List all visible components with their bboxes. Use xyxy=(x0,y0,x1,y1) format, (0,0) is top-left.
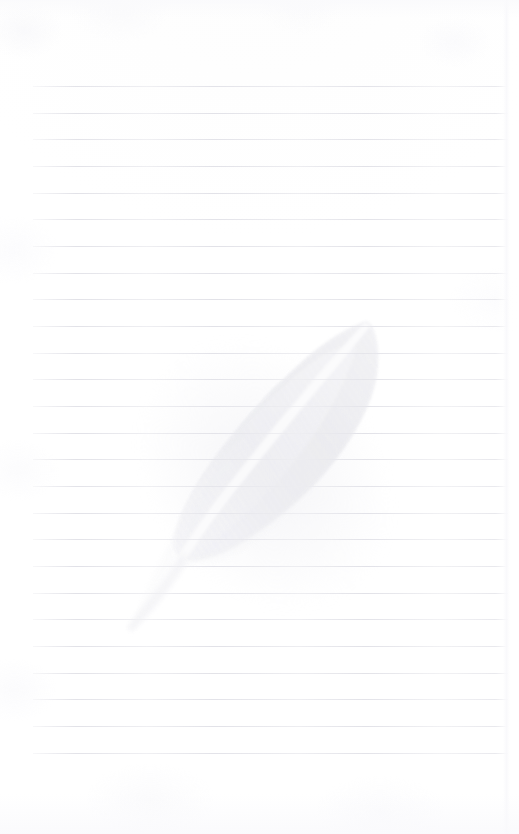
ruled-line xyxy=(33,566,508,567)
page-top-edge-glare xyxy=(0,0,519,18)
ruled-line xyxy=(33,139,508,140)
ruled-line xyxy=(33,459,508,460)
ruled-line xyxy=(33,726,508,727)
ruled-line xyxy=(33,353,508,354)
ruled-line xyxy=(33,219,508,220)
ruled-line xyxy=(33,619,508,620)
ruled-line xyxy=(33,699,508,700)
ruled-line xyxy=(33,299,508,300)
ruled-line xyxy=(33,326,508,327)
ruled-line xyxy=(33,646,508,647)
page-right-edge-shade xyxy=(503,0,510,834)
ruled-line xyxy=(33,673,508,674)
ruled-line xyxy=(33,753,508,754)
ruled-line xyxy=(33,539,508,540)
ruled-line xyxy=(33,513,508,514)
ruled-line xyxy=(33,433,508,434)
ruled-line xyxy=(33,86,508,87)
ruled-line xyxy=(33,193,508,194)
ruled-line xyxy=(33,593,508,594)
ruled-line xyxy=(33,406,508,407)
page-bottom-edge-glare xyxy=(0,794,519,834)
ruled-line xyxy=(33,246,508,247)
notebook-page: Ruled notebook page xyxy=(0,0,519,834)
ruled-line xyxy=(33,379,508,380)
ruled-line xyxy=(33,113,508,114)
ruled-line xyxy=(33,166,508,167)
ruled-line xyxy=(33,486,508,487)
ruled-line xyxy=(33,273,508,274)
ruled-lines-overlay xyxy=(0,0,519,834)
